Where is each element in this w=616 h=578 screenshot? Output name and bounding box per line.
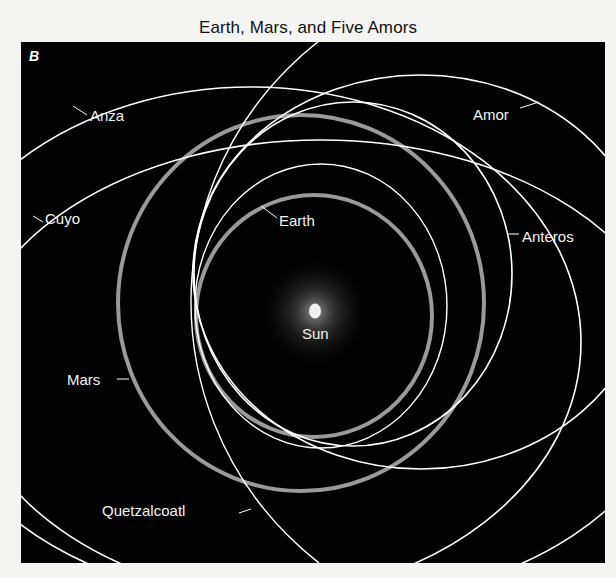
panel-letter: B (29, 48, 39, 64)
quetzalcoatl-leader (239, 509, 251, 513)
sun-label: Sun (302, 325, 329, 342)
anza-label: Anza (90, 107, 124, 124)
diagram-title: Earth, Mars, and Five Amors (0, 18, 616, 38)
cuyo-leader (33, 216, 43, 222)
mars-label: Mars (67, 371, 100, 388)
orbit-diagram-panel: B Anza Amor Cuyo Earth Anteros Sun Mars … (21, 42, 605, 563)
cuyo-label: Cuyo (45, 210, 80, 227)
quetzalcoatl-label: Quetzalcoatl (102, 502, 185, 519)
anza-leader (73, 106, 87, 115)
amor-leader (520, 102, 539, 108)
earth-leader (261, 206, 277, 218)
earth-label: Earth (279, 212, 315, 229)
sun-icon (309, 304, 321, 319)
amor-label: Amor (473, 106, 509, 123)
anteros-label: Anteros (522, 228, 574, 245)
